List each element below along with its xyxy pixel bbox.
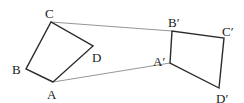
vertex-label: B′ (168, 15, 180, 30)
vertex-label: A (47, 87, 57, 102)
diagram-canvas: ABCDA′B′C′D′ (0, 0, 244, 103)
translation-diagram: ABCDA′B′C′D′ (0, 0, 244, 103)
vertex-label: A′ (153, 54, 165, 69)
vertex-label: D′ (216, 91, 228, 103)
quadrilateral-abcd (26, 22, 93, 82)
quadrilateral-a-prime-b-prime-c-prime-d-prime (170, 31, 224, 88)
vertex-label: C (45, 6, 54, 21)
connector-lines (51, 22, 172, 82)
vertex-labels: ABCDA′B′C′D′ (12, 6, 234, 103)
vertex-label: B (12, 62, 21, 77)
connector-line (51, 22, 172, 31)
vertex-label: C′ (222, 24, 234, 39)
vertex-label: D (92, 50, 101, 65)
